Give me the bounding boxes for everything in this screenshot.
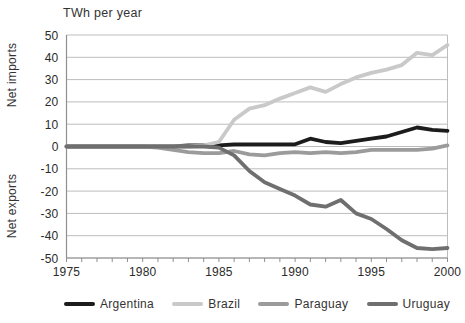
x-tick-label: 1990 <box>281 265 309 279</box>
series-lines <box>67 45 448 249</box>
legend: Argentina Brazil Paraguay Uruguay <box>64 296 450 312</box>
legend-label-paraguay: Paraguay <box>294 297 348 311</box>
legend-item-uruguay: Uruguay <box>367 297 450 311</box>
x-tick-label: 2000 <box>434 265 462 279</box>
y-tick-label: 50 <box>45 29 59 43</box>
legend-item-argentina: Argentina <box>64 297 154 311</box>
legend-swatch-argentina <box>64 302 95 306</box>
y-tick-label: -10 <box>41 162 59 176</box>
series-line-uruguay <box>67 147 448 250</box>
y-tick-label: 40 <box>45 51 59 65</box>
y-tick-label: 20 <box>45 95 59 109</box>
y-tick-label: 10 <box>45 118 59 132</box>
legend-label-uruguay: Uruguay <box>403 297 450 311</box>
x-tick-label: 1980 <box>129 265 157 279</box>
y-tick-labels: 50403020100-10-20-30-40-50 <box>41 29 59 266</box>
x-tick-label: 1985 <box>205 265 233 279</box>
y-tick-label: -40 <box>41 229 59 243</box>
legend-swatch-uruguay <box>367 302 398 306</box>
y-tick-label: -30 <box>41 207 59 221</box>
legend-item-brazil: Brazil <box>172 297 240 311</box>
series-line-argentina <box>67 128 448 147</box>
legend-label-brazil: Brazil <box>208 297 240 311</box>
line-chart: 50403020100-10-20-30-40-5019751980198519… <box>0 0 465 290</box>
legend-swatch-brazil <box>172 302 203 306</box>
y-tick-label: 0 <box>52 140 59 154</box>
legend-item-paraguay: Paraguay <box>258 297 348 311</box>
x-tick-label: 1975 <box>53 265 81 279</box>
y-tick-label: -50 <box>41 252 59 266</box>
y-tick-label: -20 <box>41 185 59 199</box>
electricity-trade-chart-figure: TWh per year Net imports Net exports 504… <box>0 0 465 323</box>
legend-label-argentina: Argentina <box>100 297 154 311</box>
x-tick-labels: 197519801985199019952000 <box>53 265 462 279</box>
y-tick-label: 30 <box>45 73 59 87</box>
x-tick-label: 1995 <box>358 265 386 279</box>
series-line-brazil <box>67 45 448 147</box>
legend-swatch-paraguay <box>258 302 289 306</box>
